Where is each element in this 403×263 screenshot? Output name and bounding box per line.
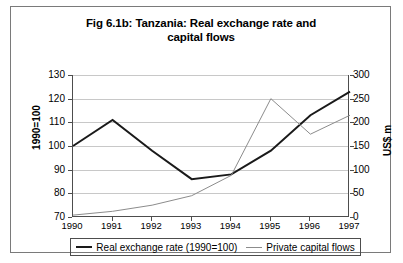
y-axis-right-tick-mark (350, 146, 354, 147)
x-axis-tick-label: 1996 (289, 221, 329, 231)
y-axis-right-tick-label: 150 (353, 141, 381, 151)
y-axis-right-tick-label: 50 (353, 188, 381, 198)
y-axis-left-tick-label: 90 (37, 165, 65, 175)
y-axis-right-tick-mark (350, 122, 354, 123)
series-line (73, 92, 350, 180)
x-axis-tick-mark (270, 217, 271, 221)
plot-area (72, 75, 349, 217)
series-lines (73, 75, 350, 217)
y-axis-right-tick-label: 100 (353, 165, 381, 175)
y-axis-right-tick-mark (350, 75, 354, 76)
x-axis-tick-label: 1997 (329, 221, 369, 231)
chart-title-line-1: Fig 6.1b: Tanzania: Real exchange rate a… (51, 16, 351, 30)
legend-item-label: Private capital flows (266, 242, 354, 253)
y-axis-right-tick-label: 300 (353, 70, 381, 80)
y-axis-left-tick-label: 100 (37, 141, 65, 151)
y-axis-right-tick-mark (350, 170, 354, 171)
x-axis-tick-label: 1992 (131, 221, 171, 231)
y-axis-left-tick-label: 120 (37, 94, 65, 104)
x-axis-tick-label: 1994 (210, 221, 250, 231)
x-axis-tick-mark (230, 217, 231, 221)
y-axis-left-tick-mark (68, 217, 72, 218)
x-axis-tick-label: 1991 (92, 221, 132, 231)
x-axis-tick-mark (112, 217, 113, 221)
legend-line-icon (76, 246, 92, 248)
y-axis-left-tick-label: 130 (37, 70, 65, 80)
y-axis-right-tick-mark (350, 217, 354, 218)
x-axis-tick-label: 1990 (52, 221, 92, 231)
x-axis-tick-mark (191, 217, 192, 221)
y-axis-left-tick-label: 110 (37, 117, 65, 127)
y-axis-right-tick-label: 200 (353, 117, 381, 127)
legend: Real exchange rate (1990=100) Private ca… (70, 238, 361, 256)
chart-title-line-2: capital flows (51, 30, 351, 44)
y-axis-right-tick-mark (350, 193, 354, 194)
chart-title: Fig 6.1b: Tanzania: Real exchange rate a… (51, 16, 351, 44)
y-axis-right-tick-label: 250 (353, 94, 381, 104)
y-axis-right-title: US$ m (382, 111, 393, 171)
legend-item-label: Real exchange rate (1990=100) (96, 242, 237, 253)
legend-item-real-exchange-rate: Real exchange rate (1990=100) (76, 242, 237, 253)
figure-frame: Fig 6.1b: Tanzania: Real exchange rate a… (10, 6, 391, 253)
legend-line-icon (246, 247, 262, 248)
x-axis-tick-label: 1993 (171, 221, 211, 231)
x-axis-tick-mark (151, 217, 152, 221)
y-axis-left-tick-label: 80 (37, 188, 65, 198)
x-axis-tick-label: 1995 (250, 221, 290, 231)
legend-item-private-capital-flows: Private capital flows (246, 242, 354, 253)
x-axis-tick-mark (309, 217, 310, 221)
y-axis-right-tick-mark (350, 99, 354, 100)
